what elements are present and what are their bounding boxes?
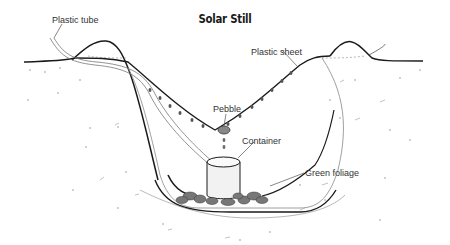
- ground-left: [24, 41, 158, 180]
- label-plastic-tube: Plastic tube: [52, 15, 99, 25]
- pebble: [218, 126, 230, 149]
- container: [207, 157, 240, 199]
- label-plastic-sheet: Plastic sheet: [251, 47, 302, 57]
- solar-still-diagram: Solar Still Plastic tube Plastic sheet P…: [0, 0, 450, 245]
- soil-texture: [27, 67, 421, 241]
- soil-dashes: [100, 80, 385, 238]
- ground-right: [322, 42, 423, 61]
- plastic-tube: [50, 38, 214, 165]
- label-pebble: Pebble: [213, 104, 241, 114]
- label-container: Container: [242, 136, 281, 146]
- label-green-foliage: Green foliage: [305, 168, 359, 178]
- diagram-drawing: [0, 0, 450, 245]
